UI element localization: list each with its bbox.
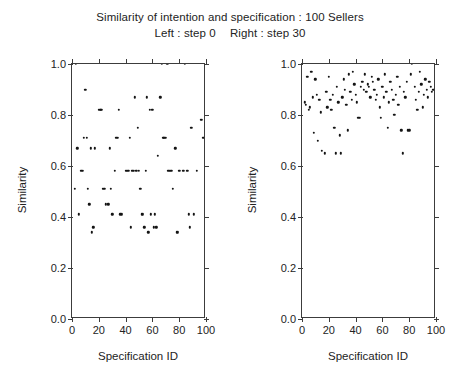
- data-point: [118, 109, 120, 111]
- x-axis-tick: [356, 317, 357, 322]
- data-point: [187, 213, 189, 215]
- data-point: [369, 96, 371, 98]
- data-point: [370, 76, 372, 78]
- data-points-right: [302, 64, 434, 317]
- data-point: [397, 104, 399, 106]
- data-point: [108, 147, 110, 149]
- data-point: [421, 106, 423, 108]
- x-axis-tick: [302, 317, 303, 322]
- data-point: [364, 73, 366, 75]
- data-point: [314, 78, 316, 80]
- data-point: [384, 73, 386, 75]
- scatter-panel-right: Similarity Specification ID 0.00.20.40.6…: [230, 0, 460, 380]
- data-point: [427, 96, 429, 98]
- y-axis-tick-label-left: 0.6: [51, 160, 66, 172]
- data-point: [329, 98, 331, 100]
- data-point: [157, 155, 159, 157]
- data-point: [144, 170, 146, 172]
- data-point: [425, 88, 427, 90]
- data-point: [147, 231, 149, 233]
- data-point: [332, 93, 334, 95]
- y-axis-tick-right: [434, 217, 439, 218]
- x-axis-tick-top: [329, 59, 330, 64]
- data-point: [186, 170, 188, 172]
- x-axis-tick-label-right: 60: [376, 324, 388, 336]
- data-point: [336, 86, 338, 88]
- x-axis-tick: [436, 317, 437, 322]
- data-point: [368, 86, 370, 88]
- data-point: [403, 91, 405, 93]
- data-point: [146, 96, 148, 98]
- data-point: [431, 91, 433, 93]
- y-axis-tick-label-right: 0.0: [281, 313, 296, 325]
- x-axis-tick-label-left: 40: [119, 324, 131, 336]
- data-point: [114, 170, 116, 172]
- data-point: [326, 106, 328, 108]
- y-axis-title-left: Similarity: [16, 167, 28, 214]
- data-point: [150, 213, 152, 215]
- data-point: [151, 109, 153, 111]
- y-axis-tick-right: [204, 217, 209, 218]
- x-axis-tick-top: [126, 59, 127, 64]
- x-axis-tick-label-right: 0: [299, 324, 305, 336]
- data-point: [391, 88, 393, 90]
- y-axis-tick-right: [434, 268, 439, 269]
- x-axis-tick-label-right: 80: [403, 324, 415, 336]
- y-axis-tick: [298, 268, 303, 269]
- data-point: [189, 226, 191, 228]
- data-point: [338, 134, 340, 136]
- data-point: [138, 170, 140, 172]
- data-point: [342, 78, 344, 80]
- x-axis-tick-top: [99, 59, 100, 64]
- data-point: [354, 93, 356, 95]
- data-point: [400, 129, 402, 131]
- data-point: [404, 96, 406, 98]
- data-point: [413, 86, 415, 88]
- y-axis-tick: [298, 166, 303, 167]
- data-point: [142, 213, 144, 215]
- data-point: [411, 64, 413, 65]
- x-axis-title-left: Specification ID: [98, 350, 178, 362]
- data-point: [76, 147, 78, 149]
- figure-canvas: Similarity of intention and specificatio…: [0, 0, 460, 380]
- y-axis-tick-label-left: 0.8: [51, 109, 66, 121]
- data-point: [161, 64, 163, 65]
- data-point: [307, 109, 309, 111]
- data-point: [333, 127, 335, 129]
- data-point: [143, 226, 145, 228]
- x-axis-tick-label-right: 40: [349, 324, 361, 336]
- x-axis-tick-label-left: 0: [69, 324, 75, 336]
- y-axis-tick-right: [204, 166, 209, 167]
- data-point: [324, 152, 326, 154]
- data-point: [73, 188, 75, 190]
- data-point: [317, 139, 319, 141]
- y-axis-tick: [298, 64, 303, 65]
- data-point: [318, 98, 320, 100]
- x-axis-tick: [126, 317, 127, 322]
- y-axis-tick-label-left: 0.0: [51, 313, 66, 325]
- data-point: [344, 88, 346, 90]
- data-point: [201, 119, 203, 121]
- data-point: [395, 93, 397, 95]
- data-point: [379, 106, 381, 108]
- x-axis-title-right: Specification ID: [328, 350, 408, 362]
- data-point: [312, 96, 314, 98]
- data-point: [75, 64, 77, 65]
- y-axis-title-right: Similarity: [246, 167, 258, 214]
- data-point: [183, 64, 185, 65]
- data-point: [328, 76, 330, 78]
- x-axis-tick: [382, 317, 383, 322]
- data-point: [401, 152, 403, 154]
- data-point: [77, 213, 79, 215]
- y-axis-tick: [68, 217, 73, 218]
- y-axis-tick: [68, 166, 73, 167]
- y-axis-tick-label-left: 0.4: [51, 211, 66, 223]
- x-axis-tick: [206, 317, 207, 322]
- data-point: [91, 231, 93, 233]
- data-point: [177, 231, 179, 233]
- x-axis-tick-label-left: 60: [146, 324, 158, 336]
- data-point: [337, 101, 339, 103]
- data-point: [195, 170, 197, 172]
- data-point: [352, 70, 354, 72]
- data-point: [387, 127, 389, 129]
